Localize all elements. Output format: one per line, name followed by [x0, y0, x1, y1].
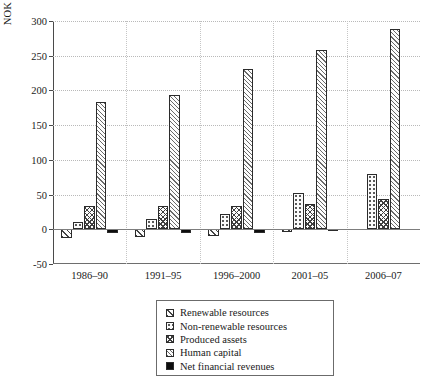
bar-human-2 — [243, 69, 254, 229]
bar-human-0 — [96, 102, 107, 230]
bar-renew-1 — [135, 229, 146, 237]
bar-renew-0 — [61, 229, 72, 238]
legend-item: Human capital — [166, 346, 333, 359]
legend-swatch-human — [166, 349, 174, 357]
y-axis-tick-mark — [49, 264, 53, 265]
gridline — [53, 125, 420, 126]
gridline — [53, 160, 420, 161]
bar-chart: NOK 1000 per capita (constant 2007 price… — [0, 0, 429, 391]
legend-swatch-nonrenew — [166, 322, 174, 330]
category-divider — [200, 21, 201, 264]
gridline — [53, 56, 420, 57]
legend-label: Renewable resources — [180, 307, 269, 318]
bar-produced-3 — [305, 204, 316, 229]
gridline — [53, 90, 420, 91]
x-axis-tick-label: 1991–95 — [145, 270, 182, 281]
bar-produced-0 — [84, 206, 95, 229]
x-axis-line — [53, 263, 420, 264]
y-axis-tick-mark — [49, 160, 53, 161]
x-axis-tick-label: 2001–05 — [292, 270, 329, 281]
legend-label: Net financial revenues — [180, 361, 274, 372]
x-axis-tick-label: 1986–90 — [71, 270, 108, 281]
y-axis-tick-label: 50 — [37, 189, 48, 200]
y-axis-tick-label: 250 — [31, 50, 47, 61]
bar-human-3 — [316, 50, 327, 229]
bar-nonrenew-4 — [367, 174, 378, 230]
y-axis-tick-label: 200 — [31, 85, 47, 96]
legend-label: Produced assets — [180, 334, 247, 345]
bar-produced-4 — [378, 199, 389, 230]
category-divider — [126, 21, 127, 264]
y-axis-tick-mark — [49, 21, 53, 22]
y-axis-title: NOK 1000 per capita (constant 2007 price… — [2, 0, 16, 30]
x-axis-tick-label: 1996–2000 — [213, 270, 260, 281]
bar-human-1 — [169, 95, 180, 229]
y-axis-tick-mark — [49, 90, 53, 91]
bar-produced-1 — [158, 206, 169, 229]
bar-nonrenew-1 — [146, 219, 157, 229]
legend-item: Renewable resources — [166, 306, 333, 319]
x-axis-tick-label: 2006–07 — [365, 270, 402, 281]
zero-line — [53, 229, 420, 230]
legend-swatch-netfin — [166, 362, 174, 370]
legend-item: Non-renewable resources — [166, 319, 333, 332]
legend-item: Produced assets — [166, 333, 333, 346]
legend-label: Human capital — [180, 347, 242, 358]
y-axis-tick-label: -50 — [33, 259, 47, 270]
bar-human-4 — [390, 29, 401, 229]
y-axis-tick-label: 150 — [31, 120, 47, 131]
y-axis-tick-label: 300 — [31, 16, 47, 27]
y-axis-tick-label: 100 — [31, 154, 47, 165]
y-axis-tick-label: 0 — [42, 224, 47, 235]
bar-nonrenew-0 — [73, 222, 84, 230]
category-divider — [273, 21, 274, 264]
legend-label: Non-renewable resources — [180, 321, 287, 332]
y-axis-tick-mark — [49, 125, 53, 126]
y-axis-tick-mark — [49, 195, 53, 196]
legend-swatch-produced — [166, 335, 174, 343]
legend-item: Net financial revenues — [166, 360, 333, 373]
legend-swatch-renew — [166, 309, 174, 317]
bar-nonrenew-2 — [220, 214, 231, 229]
gridline — [53, 195, 420, 196]
y-axis-tick-mark — [49, 56, 53, 57]
plot-area: -50050100150200250300 1986–901991–951996… — [53, 21, 420, 264]
bar-produced-2 — [231, 206, 242, 229]
gridline — [53, 21, 420, 22]
bar-nonrenew-3 — [293, 193, 304, 229]
chart-legend: Renewable resourcesNon-renewable resourc… — [156, 300, 334, 376]
y-axis-line — [53, 21, 54, 264]
category-divider — [347, 21, 348, 264]
